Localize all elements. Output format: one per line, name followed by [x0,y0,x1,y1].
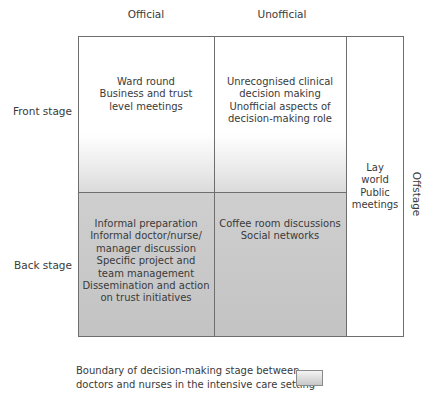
row-header-back-stage: Back stage [0,259,72,271]
cell-line: Informal preparation [78,218,214,230]
offstage-label: Offstage [411,169,423,219]
legend-line: doctors and nurses in the intensive care… [76,378,315,392]
legend-text: Boundary of decision-making stage betwee… [76,364,315,392]
cell-line: on trust initiatives [78,292,214,304]
cell-line: decision making [214,88,346,100]
cell-line: Coffee room discussions [214,218,346,230]
cell-line: Unofficial aspects of [214,101,346,113]
cell-back-official: Informal preparation Informal doctor/nur… [78,218,214,305]
row-header-front-stage: Front stage [0,105,72,117]
cell-front-official: Ward round Business and trust level meet… [78,76,214,113]
column-header-official: Official [78,8,214,20]
cell-back-unofficial: Coffee room discussions Social networks [214,218,346,243]
cell-line: manager discussion [78,243,214,255]
column-header-unofficial: Unofficial [214,8,350,20]
cell-line: Unrecognised clinical [214,76,346,88]
cell-line: Business and trust [78,88,214,100]
cell-line: Ward round [78,76,214,88]
cell-offstage: Lay world Public meetings [347,162,403,212]
grid-bottom-border [78,336,404,337]
grid-top-border [78,36,404,37]
cell-line: Specific project and [78,255,214,267]
cell-line: Social networks [214,230,346,242]
legend-swatch [296,370,323,386]
cell-line: Lay [347,162,403,174]
cell-line: Public [347,187,403,199]
cell-line: world [347,174,403,186]
grid-row-divider [78,192,346,193]
cell-line: level meetings [78,101,214,113]
cell-line: meetings [347,199,403,211]
cell-line: team management [78,268,214,280]
legend-line: Boundary of decision-making stage betwee… [76,364,315,378]
cell-line: decision-making role [214,113,346,125]
grid-right-border [403,36,404,337]
cell-line: Informal doctor/nurse/ [78,230,214,242]
cell-front-unofficial: Unrecognised clinical decision making Un… [214,76,346,126]
cell-line: Dissemination and action [78,280,214,292]
